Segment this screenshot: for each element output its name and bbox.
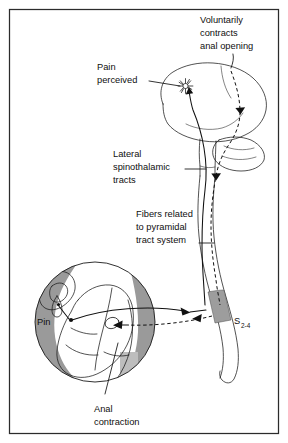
label-pyramidal-line3: tract system (136, 235, 186, 245)
label-segment-subscript: 2-4 (241, 322, 251, 329)
gluteal-region-circle (35, 262, 155, 382)
label-spinothalamic-line3: tracts (113, 175, 136, 185)
medulla-base (200, 166, 215, 168)
label-spinothalamic-line1: Lateral (113, 149, 141, 159)
label-voluntarily-line2: contracts (200, 28, 238, 38)
sacral-segment-shading (208, 290, 231, 323)
label-anal-line1: Anal (94, 404, 113, 414)
anal-reflex-diagram: Voluntarily contracts anal opening Pain … (0, 0, 288, 443)
pin-head (57, 303, 60, 306)
cerebrum-outline (161, 63, 267, 142)
spinal-cord (198, 176, 238, 383)
afferent-arrowhead (181, 308, 191, 316)
label-segment-base: S (234, 316, 240, 326)
lateral-fissure (186, 113, 243, 129)
pyramidal-arrowhead-lower (211, 173, 221, 180)
cerebellum-folia-2 (222, 156, 256, 160)
label-voluntarily-line1: Voluntarily (200, 15, 243, 25)
label-pin: Pin (37, 317, 50, 327)
label-pain-line1: Pain (97, 62, 116, 72)
label-spinothalamic-line2: spinothalamic (113, 162, 170, 172)
brainstem-left (199, 139, 200, 176)
label-pyramidal-line2: to pyramidal (136, 222, 187, 232)
leader-pain-perceived (149, 81, 180, 86)
efferent-arrowhead-mid (192, 314, 202, 322)
spinothalamic-tract-path (189, 91, 206, 305)
cord-left-edge (198, 176, 223, 378)
label-pain-line2: perceived (97, 75, 137, 85)
brainstem-right (215, 141, 216, 177)
cord-right-edge (213, 177, 238, 383)
diagram-canvas: Voluntarily contracts anal opening Pain … (0, 0, 288, 443)
leader-voluntarily-contracts (231, 54, 233, 68)
central-sulcus (221, 66, 231, 98)
label-pyramidal-line1: Fibers related (136, 209, 193, 219)
cerebellum-folia-1 (224, 146, 254, 150)
brain (161, 63, 267, 177)
afferent-into-cord (190, 310, 206, 312)
pyramidal-arrowhead-upper (235, 107, 245, 114)
label-sacral-segment: S 2-4 (234, 316, 251, 329)
pyramidal-tract-path (211, 71, 240, 305)
label-voluntarily-line3: anal opening (200, 41, 253, 51)
cerebellum-outline (213, 137, 265, 171)
label-anal-line2: contraction (94, 417, 139, 427)
